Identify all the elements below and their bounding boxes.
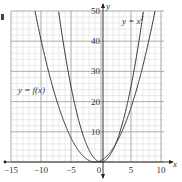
- curve-label-x-squared: y = x2: [122, 15, 144, 26]
- x-tick-label: −15: [4, 165, 19, 175]
- y-tick-label: 50: [91, 6, 101, 16]
- y-tick-label: 20: [91, 97, 101, 107]
- x-tick-label: 5: [129, 165, 134, 175]
- curve-label-x-squared-exponent: 2: [141, 15, 144, 21]
- x-axis-label: x: [173, 160, 177, 169]
- margin-mark: [1, 14, 4, 20]
- x-tick-label: 10: [157, 165, 167, 175]
- y-axis-up-arrow-icon: [101, 3, 105, 8]
- curve-label-x-squared-text: y = x: [122, 16, 141, 26]
- y-tick-label: 40: [91, 36, 101, 46]
- x-tick-label: −5: [66, 165, 76, 175]
- x-tick-label: 0: [97, 165, 102, 175]
- curve-label-f: y = f(x): [18, 86, 45, 95]
- y-tick-label: 30: [91, 66, 101, 76]
- x-axis-left-arrow-icon: [4, 161, 7, 164]
- x-tick-label: −10: [34, 165, 49, 175]
- y-axis-down-arrow-icon: [101, 174, 105, 179]
- y-axis-label: y: [106, 2, 110, 11]
- y-tick-label: 10: [91, 127, 101, 137]
